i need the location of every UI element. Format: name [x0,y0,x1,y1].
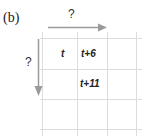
right-arrow-icon [48,24,107,32]
down-arrow-icon [35,39,43,96]
grid-diagram [0,0,151,137]
cell-r2c2: t+11 [80,78,100,89]
cell-r1c1: t [61,48,64,59]
cell-r1c2: t+6 [81,48,96,59]
